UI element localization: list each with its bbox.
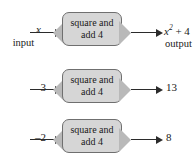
machine-row-1: x input square and add 4 x2 + 4 output [0,6,194,58]
machine-box-2: square and add 4 [62,69,122,103]
machine-box-1: square and add 4 [62,12,122,46]
arrow-shaft [131,139,158,140]
output-arrow-1 [131,28,164,38]
arrow-shaft [131,32,158,33]
machine-label-line1: square and [70,17,113,29]
output-arrow-3 [131,135,164,145]
machine-label-line2: add 4 [81,29,103,41]
output-funnel-3 [119,128,131,152]
output-label-2: 13 [166,82,194,95]
output-funnel-2 [119,78,131,102]
arrow-head-icon [156,86,163,94]
machine-label-line1: square and [70,74,113,86]
output-label-1: x2 + 4 output [164,24,194,49]
output-value-1: x2 + 4 [164,24,194,37]
arrow-shaft [131,89,158,90]
machine-row-3: –2 square and add 4 8 [0,113,194,164]
machine-label-line2: add 4 [81,136,103,148]
input-sublabel-1: input [2,37,46,48]
output-funnel-1 [119,21,131,45]
machine-row-2: 3 square and add 4 13 [0,63,194,115]
output-value-3: 8 [166,132,194,144]
arrow-head-icon [156,29,163,37]
output-arrow-2 [131,85,164,95]
machine-label-line2: add 4 [81,86,103,98]
output-sublabel-1: output [165,38,194,49]
output-rest-1: + 4 [175,25,189,37]
machine-label-line1: square and [70,124,113,136]
machine-box-3: square and add 4 [62,119,122,153]
output-label-3: 8 [166,132,194,145]
function-machine-diagram: x input square and add 4 x2 + 4 output 3 [0,0,194,164]
output-value-2: 13 [166,82,194,94]
arrow-head-icon [156,136,163,144]
